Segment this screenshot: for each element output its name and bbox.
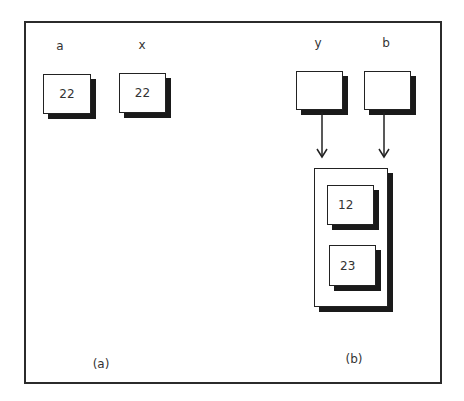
caption-a: (a)	[93, 357, 110, 371]
reference-box-b	[364, 71, 411, 110]
reference-label-y: y	[314, 36, 321, 50]
reference-label-b: b	[382, 36, 390, 50]
reference-box-y	[296, 71, 343, 110]
object-field-value-2: 23	[340, 259, 355, 273]
object-field-value-1: 12	[338, 198, 353, 212]
variable-box-x: 22	[119, 73, 166, 113]
variable-value-a: 22	[59, 87, 74, 101]
object-field-2: 23	[329, 245, 376, 286]
caption-b: (b)	[346, 352, 363, 366]
variable-label-x: x	[138, 38, 145, 52]
variable-label-a: a	[56, 39, 63, 53]
object-field-1: 12	[327, 185, 374, 225]
variable-value-x: 22	[135, 86, 150, 100]
variable-box-a: 22	[43, 74, 91, 114]
